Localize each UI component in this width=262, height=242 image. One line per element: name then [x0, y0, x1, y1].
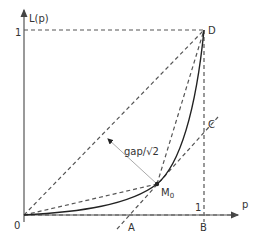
m0-point — [155, 182, 159, 186]
point-d-label: D — [208, 25, 216, 36]
origin-label: 0 — [14, 220, 20, 231]
gap-annotation: gap/√2 — [124, 146, 159, 157]
point-m0-label: M0 — [161, 187, 174, 200]
x-axis-label: p — [242, 199, 248, 210]
point-c-label: C — [208, 119, 215, 130]
chord-m0-d — [157, 30, 204, 184]
chord-o-m0 — [24, 184, 157, 215]
lorenz-diagram: L(p) p 0 1 1 D C A B M0 gap/√2 — [0, 0, 262, 242]
y-axis-label: L(p) — [29, 13, 49, 24]
point-b-label: B — [200, 222, 207, 233]
equality-diagonal — [24, 30, 204, 215]
y-tick-1-label: 1 — [15, 27, 21, 38]
x-tick-1-label: 1 — [195, 202, 201, 213]
point-a-label: A — [128, 222, 135, 233]
